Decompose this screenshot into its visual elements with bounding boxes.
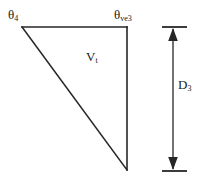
label-d-3-symbol: D	[178, 77, 187, 92]
triangle-hypotenuse-edge	[22, 27, 127, 170]
label-theta-ve3: θve3	[114, 8, 132, 21]
label-theta-4-subscript: 4	[14, 14, 18, 23]
diagram-canvas	[0, 0, 203, 183]
arrowhead-up-icon	[168, 28, 178, 41]
label-v-t: Vt	[86, 50, 98, 63]
triangle-group	[22, 27, 127, 170]
label-v-t-symbol: V	[86, 49, 95, 64]
label-theta-ve3-subscript: ve3	[120, 14, 132, 23]
engineering-diagram: θ4 θve3 Vt D3	[0, 0, 203, 183]
label-d-3-subscript: 3	[187, 84, 191, 93]
arrowhead-down-icon	[168, 157, 178, 170]
dimension-group	[162, 27, 187, 171]
label-v-t-subscript: t	[95, 56, 97, 65]
label-theta-4: θ4	[8, 8, 18, 21]
label-d-3: D3	[178, 78, 191, 91]
